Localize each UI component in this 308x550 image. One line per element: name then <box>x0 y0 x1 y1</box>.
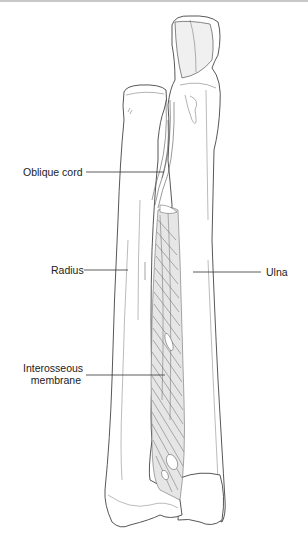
interosseous-membrane <box>151 205 185 500</box>
label-oblique-cord: Oblique cord <box>23 166 83 178</box>
label-interosseous-line2: membrane <box>23 374 81 386</box>
forearm-bones-illustration <box>0 0 308 550</box>
label-ulna: Ulna <box>266 266 288 278</box>
label-radius: Radius <box>51 264 84 276</box>
label-interosseous-line1: Interosseous <box>23 362 81 374</box>
